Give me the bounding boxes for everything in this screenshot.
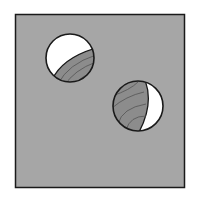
diagram-canvas	[0, 0, 202, 207]
